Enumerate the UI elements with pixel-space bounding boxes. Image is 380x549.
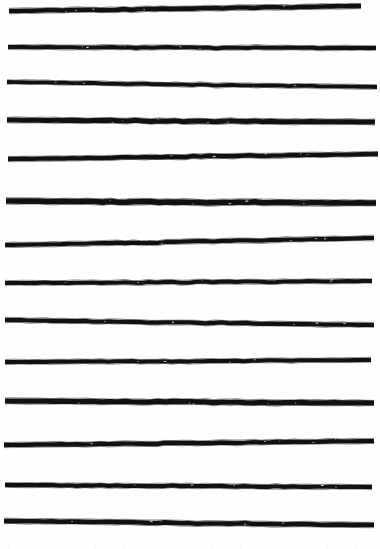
line-8-ink-gap	[331, 279, 334, 280]
line-10-ink-gap	[229, 362, 231, 363]
line-12-ink-gap	[312, 442, 315, 443]
line-6-ink-gap	[245, 201, 248, 202]
line-3-ink-gap	[75, 84, 76, 85]
line-3-ink-gap	[294, 85, 297, 86]
line-10-ink-gap	[254, 359, 256, 360]
line-12-ink-gap	[279, 441, 280, 442]
line-12-ink-gap	[264, 441, 266, 442]
line-9-ink-gap	[104, 321, 106, 322]
line-5-ink-gap	[300, 153, 302, 154]
line-13-ink-gap	[335, 487, 336, 488]
line-9-ink-gap	[293, 324, 294, 325]
line-14-ink-gap	[71, 521, 73, 522]
line-4-ink-gap	[122, 120, 123, 121]
line-7-ink-gap	[324, 238, 326, 239]
line-1-ink-gap	[75, 10, 77, 11]
line-11-ink-gap	[192, 404, 195, 405]
line-13-ink-gap	[191, 484, 194, 485]
horizontal-line-6	[6, 201, 376, 203]
line-9-ink-gap	[343, 323, 346, 324]
artwork-canvas	[0, 0, 380, 549]
line-2-ink-gap	[200, 48, 201, 49]
line-8-ink-gap	[330, 281, 332, 282]
line-11-ink-gap	[189, 403, 190, 404]
line-1-ink-gap	[283, 6, 286, 7]
line-12-ink-gap	[335, 439, 336, 440]
line-10-ink-gap	[164, 361, 167, 362]
line-5-ink-gap	[264, 154, 267, 155]
line-4-ink-gap	[112, 122, 114, 123]
line-2-ink-gap	[124, 46, 125, 47]
line-6-ink-gap	[110, 200, 111, 201]
line-4-ink-gap	[207, 122, 210, 123]
line-14-ink-gap	[160, 521, 162, 522]
line-13-ink-gap	[133, 485, 136, 486]
line-11-ink-gap	[78, 403, 79, 404]
line-4-ink-gap	[227, 122, 230, 123]
line-8-ink-gap	[64, 282, 67, 283]
line-10-ink-gap	[137, 361, 139, 362]
line-3-ink-gap	[83, 83, 85, 84]
line-6-ink-gap	[192, 204, 194, 205]
line-7-ink-gap	[161, 243, 164, 244]
line-4-ink-gap	[158, 119, 159, 120]
line-2-ink-gap	[86, 47, 88, 48]
line-7-ink-gap	[315, 238, 317, 239]
horizontal-line-13	[5, 485, 372, 487]
horizontal-line-2	[8, 47, 376, 48]
line-5-ink-gap	[213, 156, 216, 157]
line-1-ink-gap	[65, 11, 67, 12]
line-1-ink-gap	[144, 9, 145, 10]
line-1-ink-gap	[92, 9, 94, 10]
line-5-ink-gap	[307, 154, 309, 155]
line-9-ink-gap	[172, 322, 174, 323]
line-14-ink-gap	[244, 524, 246, 525]
line-7-ink-gap	[290, 240, 293, 241]
line-9-ink-gap	[316, 323, 318, 324]
horizontal-lines-drawing	[0, 0, 380, 549]
line-12-ink-gap	[90, 443, 93, 444]
line-8-ink-gap	[201, 281, 203, 282]
line-14-ink-gap	[282, 523, 285, 524]
line-3-ink-gap	[253, 86, 254, 87]
line-7-ink-gap	[145, 240, 148, 241]
line-6-ink-gap	[303, 203, 304, 204]
horizontal-line-4	[7, 120, 375, 122]
line-11-ink-gap	[295, 403, 296, 404]
line-3-ink-gap	[54, 82, 56, 83]
line-8-ink-gap	[138, 282, 139, 283]
line-14-ink-gap	[150, 521, 153, 522]
horizontal-line-8	[5, 281, 372, 283]
line-13-ink-gap	[321, 485, 324, 486]
horizontal-line-10	[5, 360, 371, 362]
line-5-ink-gap	[170, 156, 173, 157]
line-10-ink-gap	[108, 360, 109, 361]
line-13-ink-gap	[233, 485, 235, 486]
line-2-ink-gap	[82, 46, 83, 47]
line-11-ink-gap	[268, 403, 269, 404]
line-2-ink-gap	[179, 46, 181, 47]
line-6-ink-gap	[228, 203, 231, 204]
